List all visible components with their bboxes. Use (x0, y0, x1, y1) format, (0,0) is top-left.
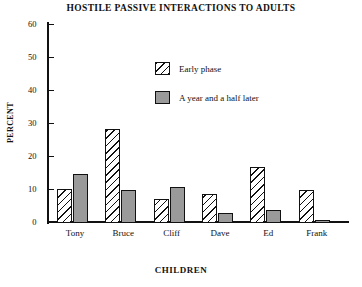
bar-group-dave: Dave (198, 25, 246, 223)
y-tick-label-50: 50 (28, 52, 37, 62)
legend-swatch-hatched-icon (155, 62, 170, 75)
bar-chart: HOSTILE PASSIVE INTERACTIONS TO ADULTS P… (0, 0, 362, 287)
bar-cliff-later (170, 187, 185, 223)
legend-item-later: A year and a half later (155, 91, 259, 104)
bar-frank-later (315, 220, 330, 223)
bar-cliff-early (154, 199, 169, 224)
y-axis-title: PERCENT (6, 93, 15, 153)
bar-bruce-early (105, 129, 120, 223)
bar-group-cliff: Cliff (150, 25, 198, 223)
x-tick-label-dave: Dave (198, 228, 242, 238)
bar-ed-early (250, 167, 265, 223)
x-tick-label-bruce: Bruce (101, 228, 145, 238)
x-tick-label-frank: Frank (295, 228, 339, 238)
plot-area: 6050403020100 TonyBruceCliffDaveEdFrank (47, 25, 343, 223)
bar-ed-later (266, 210, 281, 223)
bar-group-frank: Frank (295, 25, 343, 223)
y-tick-label-40: 40 (28, 85, 37, 95)
y-tick-label-60: 60 (28, 19, 37, 29)
legend-label-early: Early phase (179, 64, 221, 74)
bar-dave-early (202, 194, 217, 223)
legend-label-later: A year and a half later (179, 93, 259, 103)
y-tick-label-30: 30 (28, 118, 37, 128)
bar-group-bruce: Bruce (101, 25, 149, 223)
y-tick-label-0: 0 (32, 217, 36, 227)
legend-item-early: Early phase (155, 62, 259, 75)
y-tick-label-20: 20 (28, 151, 37, 161)
x-tick-label-tony: Tony (53, 228, 97, 238)
legend-swatch-gray-icon (155, 91, 170, 104)
bar-group-tony: Tony (53, 25, 101, 223)
bar-groups: TonyBruceCliffDaveEdFrank (47, 25, 343, 223)
x-tick-label-ed: Ed (246, 228, 290, 238)
bar-dave-later (218, 213, 233, 223)
bar-group-ed: Ed (246, 25, 294, 223)
x-tick-label-cliff: Cliff (150, 228, 194, 238)
y-tick-label-10: 10 (28, 184, 37, 194)
x-axis-title: CHILDREN (0, 265, 362, 275)
bar-bruce-later (121, 190, 136, 223)
chart-title: HOSTILE PASSIVE INTERACTIONS TO ADULTS (0, 3, 362, 13)
bar-tony-later (73, 174, 88, 223)
legend: Early phase A year and a half later (155, 62, 259, 120)
bar-frank-early (299, 190, 314, 223)
bar-tony-early (57, 189, 72, 223)
